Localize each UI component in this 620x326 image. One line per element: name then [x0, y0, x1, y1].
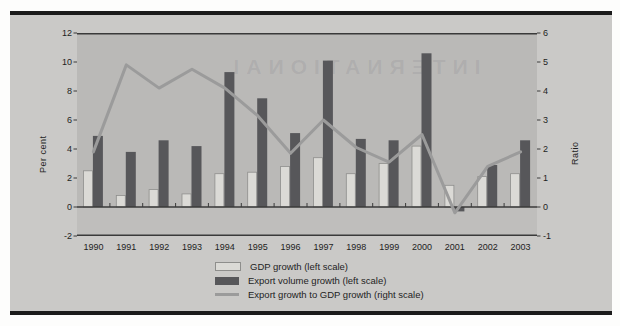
x-axis-year-label: 1993	[175, 242, 209, 252]
x-axis-year-label: 1992	[142, 242, 176, 252]
x-axis-year-label: 1995	[241, 242, 275, 252]
left-axis-tick-label: 8	[46, 86, 72, 97]
figure-frame-bottom-rule	[10, 311, 612, 315]
gdp-growth-bar	[182, 194, 191, 207]
export-to-gdp-ratio-line-swatch-icon	[215, 293, 239, 296]
export-volume-growth-swatch-icon	[215, 277, 239, 285]
gdp-growth-bar	[149, 190, 158, 207]
export-volume-growth-bar	[520, 140, 530, 207]
right-axis-tick-label: 4	[543, 86, 569, 97]
gdp-growth-swatch-icon	[215, 262, 241, 271]
chart-legend: GDP growth (left scale) Export volume gr…	[215, 260, 424, 302]
left-axis-tick-label: 2	[46, 173, 72, 184]
x-axis-year-label: 1998	[339, 242, 373, 252]
legend-item-gdp-growth: GDP growth (left scale)	[215, 260, 424, 273]
left-axis-tick-label: 10	[46, 57, 72, 68]
export-volume-growth-bar	[389, 140, 399, 207]
gdp-growth-bar	[511, 174, 520, 207]
right-axis-tick-label: 1	[543, 173, 569, 184]
chart-figure: INTERNATIONAL Per cent Ratio GDP growth …	[10, 15, 612, 311]
right-axis-title: Ratio	[570, 115, 580, 165]
right-axis-tick-label: 0	[543, 202, 569, 213]
legend-label-export-volume-growth: Export volume growth (left scale)	[248, 275, 386, 287]
left-axis-tick-label: 0	[46, 202, 72, 213]
x-axis-year-label: 1997	[306, 242, 340, 252]
x-axis-year-label: 2001	[438, 242, 472, 252]
scanned-page: INTERNATIONAL Per cent Ratio GDP growth …	[0, 0, 620, 326]
gdp-growth-bar	[281, 166, 290, 207]
left-axis-tick-label: 12	[46, 28, 72, 39]
export-volume-growth-bar	[192, 146, 202, 207]
export-volume-growth-bar	[323, 61, 333, 207]
right-axis-tick-label: -1	[543, 231, 569, 242]
right-axis-tick-label: 2	[543, 144, 569, 155]
x-axis-year-label: 1991	[109, 242, 143, 252]
legend-label-gdp-growth: GDP growth (left scale)	[250, 261, 348, 273]
export-volume-growth-bar	[159, 140, 169, 207]
chart-plot-area	[77, 33, 537, 236]
gdp-growth-bar	[379, 164, 388, 208]
gdp-growth-bar	[215, 174, 224, 207]
legend-label-export-to-gdp-ratio: Export growth to GDP growth (right scale…	[248, 289, 424, 301]
gdp-growth-bar	[346, 174, 355, 207]
gdp-growth-bar	[248, 172, 257, 207]
left-axis-tick-label: 4	[46, 144, 72, 155]
export-volume-growth-bar	[126, 152, 136, 207]
legend-item-export-volume-growth: Export volume growth (left scale)	[215, 274, 424, 287]
x-axis-year-label: 1994	[208, 242, 242, 252]
right-axis-tick-label: 5	[543, 57, 569, 68]
legend-item-export-to-gdp-ratio: Export growth to GDP growth (right scale…	[215, 288, 424, 301]
export-volume-growth-bar	[487, 165, 497, 207]
export-volume-growth-bar	[422, 53, 432, 207]
right-axis-tick-label: 3	[543, 115, 569, 126]
left-axis-tick-label: -2	[46, 231, 72, 242]
left-axis-tick-label: 6	[46, 115, 72, 126]
gdp-growth-bar	[116, 195, 125, 207]
x-axis-year-label: 1990	[76, 242, 110, 252]
left-axis-title: Per cent	[38, 103, 48, 173]
x-axis-year-label: 2002	[471, 242, 505, 252]
x-axis-year-label: 2000	[405, 242, 439, 252]
gdp-growth-bar	[313, 158, 322, 207]
gdp-growth-bar	[412, 146, 421, 207]
x-axis-year-label: 1999	[372, 242, 406, 252]
gdp-growth-bar	[83, 171, 92, 207]
right-axis-tick-label: 6	[543, 28, 569, 39]
x-axis-year-label: 2003	[504, 242, 538, 252]
x-axis-year-label: 1996	[274, 242, 308, 252]
